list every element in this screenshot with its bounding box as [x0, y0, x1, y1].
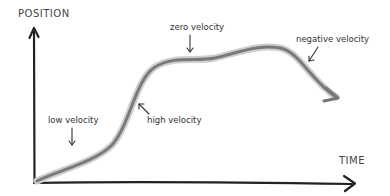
y-axis [30, 28, 39, 183]
low-velocity-arrow-icon [69, 128, 75, 145]
y-axis-label: POSITION [18, 8, 70, 19]
high-velocity-arrow-icon [139, 104, 149, 114]
x-axis-label: TIME [339, 155, 365, 166]
annotation-negative-velocity: negative velocity [296, 34, 369, 44]
annotation-low-velocity: low velocity [48, 115, 98, 125]
annotation-zero-velocity: zero velocity [170, 22, 224, 32]
x-axis [34, 176, 355, 191]
annotation-high-velocity: high velocity [147, 115, 201, 125]
zero-velocity-arrow-icon [187, 35, 193, 52]
negative-velocity-arrow-icon [309, 47, 318, 61]
position-curve [37, 47, 338, 181]
